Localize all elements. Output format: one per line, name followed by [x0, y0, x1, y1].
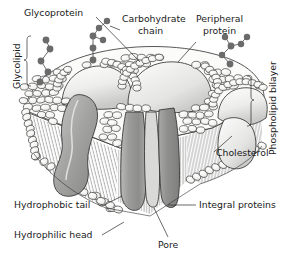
label-pore: Pore — [158, 239, 179, 250]
phospholipid-head — [196, 127, 205, 134]
phospholipid-head — [133, 105, 142, 112]
phospholipid-head — [199, 104, 209, 111]
phospholipid-head — [133, 85, 141, 91]
leader-pore — [154, 208, 168, 237]
phospholipid-head — [25, 90, 34, 96]
label-glycoprotein: Glycoprotein — [24, 7, 83, 18]
membrane-body — [19, 47, 268, 217]
phospholipid-head — [28, 97, 37, 105]
phospholipid-head — [28, 83, 38, 90]
phospholipid-head — [208, 119, 217, 126]
phospholipid-head — [192, 61, 201, 68]
glycolipid-bracket — [24, 36, 31, 86]
label-integral-proteins: Integral proteins — [199, 199, 276, 210]
label-hydrophobic-tail: Hydrophobic tail — [14, 199, 90, 210]
phospholipid-head — [179, 125, 188, 132]
leader-carbohydrate-chain — [110, 26, 120, 30]
label-peripheral-protein-line2: protein — [203, 25, 236, 36]
phospholipid-head — [141, 105, 150, 112]
phospholipid-head — [111, 125, 120, 132]
pore-channel — [145, 112, 160, 207]
cell-membrane-figure: Glycoprotein Carbohydrate chain Peripher… — [0, 0, 282, 258]
integral-protein-left — [121, 112, 146, 210]
membrane-diagram-svg: Glycoprotein Carbohydrate chain Peripher… — [0, 0, 282, 258]
label-peripheral-protein-line1: Peripheral — [196, 13, 243, 24]
label-phospholipid-bilayer: Phospholipid bilayer — [267, 61, 278, 155]
phospholipid-head — [63, 66, 72, 73]
phospholipid-head — [41, 104, 51, 110]
phospholipid-head — [112, 112, 121, 119]
phospholipid-head — [104, 111, 114, 118]
label-glycolipid: Glycolipid — [11, 43, 22, 89]
phospholipid-head — [155, 54, 163, 61]
leader-hydrophilic-head — [102, 222, 124, 235]
label-carbohydrate-chain-line1: Carbohydrate — [122, 13, 186, 24]
phospholipid-head — [192, 119, 201, 125]
label-carbohydrate-chain-line2: chain — [138, 25, 163, 36]
label-cholesterol: Cholesterol — [216, 147, 268, 158]
label-hydrophilic-head: Hydrophilic head — [14, 229, 93, 240]
phospholipid-head — [53, 97, 62, 104]
integral-protein-right — [159, 108, 180, 208]
